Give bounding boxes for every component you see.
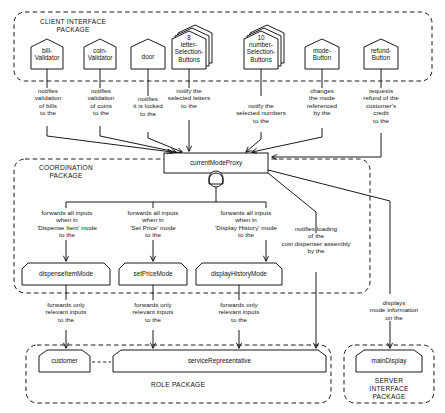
- edge-label-proxy-to-main-display: displays mode information on the: [358, 299, 430, 321]
- edge-label-numbers-to-proxy: notify the selected numbers to the: [222, 102, 300, 124]
- edge-label-set-price-to-service-representative: forwards only relevant inputs to the: [117, 301, 189, 323]
- node-label-set-price-mode[interactable]: setPriceMode: [119, 270, 187, 277]
- edge-label-proxy-to-dispense-item-mode: forwards all inputs when in 'Dispense It…: [22, 209, 112, 239]
- package-label-coordination: COORDINATION PACKAGE: [18, 164, 114, 180]
- node-label-refund-button[interactable]: refund- Button: [363, 47, 399, 61]
- package-label-role: ROLE PACKAGE: [118, 381, 238, 389]
- package-label-server-interface: SERVER INTERFACE PACKAGE: [354, 377, 424, 401]
- node-label-door[interactable]: door: [130, 53, 166, 60]
- edge-label-proxy-to-set-price-mode: forwards all inputs when in 'Set Price' …: [112, 209, 194, 239]
- node-label-main-display[interactable]: mainDisplay: [356, 357, 422, 364]
- edge-proxy-to-service-representative: [268, 173, 316, 348]
- node-label-number-selection-buttons[interactable]: 10 number- Selection- Buttons: [241, 34, 281, 63]
- edge-label-display-history-to-service-representative: forwards only relevant inputs to the: [203, 301, 275, 323]
- node-label-mode-button[interactable]: mode- Button: [304, 47, 340, 61]
- node-label-service-representative[interactable]: serviceRepresentative: [113, 357, 326, 364]
- edge-label-mode-to-proxy: changes the mode referenced by the: [298, 87, 346, 117]
- node-label-letter-selection-buttons[interactable]: 8 letter- Selection- Buttons: [169, 34, 209, 63]
- package-label-client-interface: CLIENT INTERFACE PACKAGE: [18, 18, 128, 34]
- edge-label-refund-to-proxy: requests refund of the customer's credit…: [351, 87, 411, 124]
- edge-label-bill-to-proxy: notifies validation of bills to the: [20, 87, 76, 117]
- node-label-customer[interactable]: customer: [39, 357, 90, 364]
- edge-label-letters-to-proxy: notify the selected letters to the: [152, 87, 226, 109]
- edge-label-dispense-to-customer: forwards only relevant inputs to the: [30, 301, 102, 323]
- edge-label-coin-to-proxy: notifies validation of coins to the: [73, 87, 129, 117]
- node-label-coin-validator[interactable]: coin- Validator: [82, 47, 118, 61]
- node-label-bill-validator[interactable]: bill- Validator: [29, 47, 65, 61]
- edge-label-proxy-to-service-representative: notifies loading of the coin dispenser a…: [266, 225, 366, 255]
- node-label-current-mode-proxy[interactable]: currentModeProxy: [164, 159, 268, 166]
- diagram-vector-layer: [0, 0, 445, 413]
- node-label-display-history-mode[interactable]: displayHistoryMode: [196, 270, 282, 277]
- node-label-dispense-item-mode[interactable]: dispenseItemMode: [22, 270, 110, 277]
- edge-proxy-to-main-display: [268, 170, 390, 348]
- diagram-canvas: CLIENT INTERFACE PACKAGE COORDINATION PA…: [0, 0, 445, 413]
